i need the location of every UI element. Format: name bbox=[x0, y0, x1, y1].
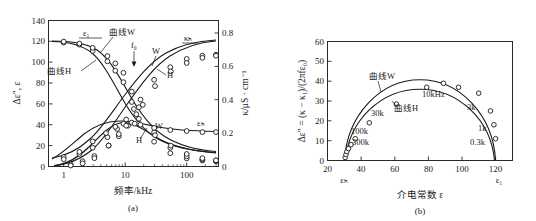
label-curve-w-b: 曲线W bbox=[369, 71, 395, 81]
panel-a-ytick-40: 40 bbox=[36, 120, 46, 130]
panel-b-xtick-100: 100 bbox=[455, 164, 469, 174]
panel-a-yaxis-left-label: Δε″, ε bbox=[12, 82, 22, 105]
label-curve-h-b: 曲线H bbox=[394, 103, 418, 113]
figure-container: 0 20 40 60 80 100 120 140 0 0.2 0.4 0.6 … bbox=[0, 0, 536, 221]
label-point-300k: 300k bbox=[352, 137, 370, 147]
label-eps-h: εₕ bbox=[197, 118, 205, 128]
panel-b-annotations: 曲线W 曲线H 300k 100k 30k 10kHz 3k 1k 0.3k bbox=[351, 71, 487, 147]
label-h-upper: H bbox=[167, 70, 173, 80]
panel-a-xtick-10: 10 bbox=[121, 170, 131, 180]
panel-a-ytick-r-0: 0 bbox=[222, 162, 227, 172]
panel-a-ytick-0: 0 bbox=[41, 162, 46, 172]
markers-cole-cole bbox=[343, 81, 498, 160]
label-point-100k: 100k bbox=[351, 126, 369, 136]
panel-b-ytick-30: 30 bbox=[315, 96, 325, 106]
panel-b-ytick-10: 10 bbox=[315, 136, 325, 146]
panel-a-xtick-1: 1 bbox=[61, 170, 66, 180]
label-point-3k: 3k bbox=[467, 102, 476, 112]
label-w-lower: W bbox=[155, 121, 163, 131]
panel-a-ytick-r-02: 0.2 bbox=[222, 128, 233, 138]
label-point-1k: 1k bbox=[478, 123, 487, 133]
label-kappa-h: κₕ bbox=[184, 33, 192, 43]
panel-a-ytick-r-08: 0.8 bbox=[222, 28, 234, 38]
label-point-30k: 30k bbox=[371, 108, 385, 118]
panel-b-xticks bbox=[328, 157, 496, 161]
panel-a-xaxis-label: 频率/kHz bbox=[114, 185, 152, 196]
panel-b-caption: (b) bbox=[415, 206, 426, 216]
panel-a-ytick-120: 120 bbox=[32, 36, 46, 46]
label-point-10kHz: 10kHz bbox=[422, 89, 445, 99]
panel-a: 0 20 40 60 80 100 120 140 0 0.2 0.4 0.6 … bbox=[12, 16, 250, 214]
panel-b-ytick-60: 60 bbox=[315, 37, 325, 47]
panel-a-ytick-60: 60 bbox=[36, 99, 46, 109]
panel-b-xtick-60: 60 bbox=[390, 164, 400, 174]
panel-a-xticks bbox=[64, 163, 216, 167]
panel-b-xtick-40: 40 bbox=[357, 164, 367, 174]
panel-b-ytick-20: 20 bbox=[315, 116, 325, 126]
label-w-upper: W bbox=[152, 46, 160, 56]
panel-a-caption: (a) bbox=[128, 203, 138, 213]
label-eps1-axis: ε₁ bbox=[496, 175, 503, 185]
panel-b-ytick-40: 40 bbox=[315, 76, 325, 86]
panel-a-xtick-100: 100 bbox=[180, 170, 194, 180]
label-curve-w-a: 曲线W bbox=[109, 27, 135, 37]
panel-a-ytick-80: 80 bbox=[36, 78, 46, 88]
panel-b-xtick-80: 80 bbox=[424, 164, 434, 174]
f0-arrow-icon bbox=[132, 62, 137, 68]
label-f0: f₀ bbox=[131, 40, 137, 50]
panel-a-ytick-100: 100 bbox=[32, 57, 46, 67]
label-point-03k: 0.3k bbox=[470, 137, 486, 147]
panel-b-yaxis-label: Δε″ = (κ − κ₁)/(2πfε₀) bbox=[297, 60, 308, 142]
panel-b-xaxis-label: 介电常数 ε bbox=[397, 189, 443, 200]
panel-a-yaxis-right-label: κ/μS · cm⁻¹ bbox=[240, 70, 250, 115]
panel-a-left-yticks bbox=[49, 21, 53, 167]
panel-b-yticks bbox=[328, 42, 332, 161]
panel-b-xtick-20: 20 bbox=[323, 164, 333, 174]
label-eps1: ε₁ bbox=[83, 28, 90, 38]
panel-a-ytick-20: 20 bbox=[36, 141, 46, 151]
panel-b-xtick-120: 120 bbox=[489, 164, 503, 174]
label-eps-h-axis: εₕ bbox=[340, 175, 348, 185]
figure-svg: 0 20 40 60 80 100 120 140 0 0.2 0.4 0.6 … bbox=[0, 0, 536, 221]
curve-loss-w bbox=[52, 121, 216, 159]
panel-a-ytick-r-06: 0.6 bbox=[222, 61, 234, 71]
curve-arc-w bbox=[345, 80, 496, 161]
panel-a-ytick-r-04: 0.4 bbox=[222, 95, 234, 105]
label-curve-h-a: 曲线H bbox=[47, 66, 71, 76]
panel-a-ytick-140: 140 bbox=[32, 16, 46, 26]
curve-loss-h bbox=[54, 123, 216, 166]
panel-b: 0 10 20 30 40 50 60 20 40 60 80 100 120 … bbox=[297, 37, 513, 217]
panel-b-ytick-50: 50 bbox=[315, 56, 325, 66]
